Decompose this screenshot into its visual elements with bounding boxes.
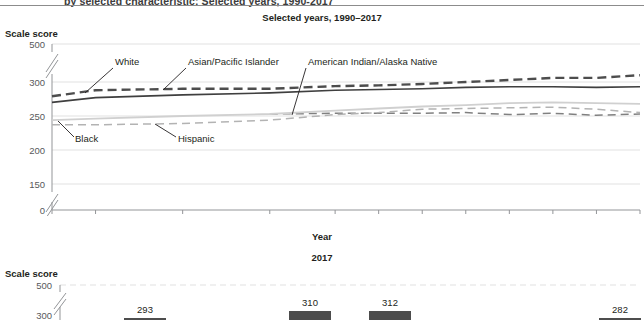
- x-axis-title: Year: [0, 231, 644, 242]
- line-chart-subtitle: Selected years, 1990–2017: [0, 12, 644, 23]
- y-tick-250: 250: [29, 111, 45, 122]
- leader-line-hispanic: [155, 124, 176, 137]
- series-label-white: White: [115, 56, 139, 67]
- bar-value-american-indian-alaska-native: 282: [612, 304, 628, 315]
- series-label-hispanic: Hispanic: [178, 133, 215, 144]
- series-label-american-indian-alaska-native: American Indian/Alaska Native: [308, 56, 437, 67]
- y-tick-300: 300: [36, 310, 52, 320]
- y-tick-0: 0: [40, 205, 45, 216]
- y-tick-200: 200: [29, 145, 45, 156]
- bar-asian-pacific-islander: [369, 311, 411, 320]
- y-tick-500: 500: [36, 280, 52, 291]
- leader-line-black: [58, 121, 74, 137]
- chart-page: by selected characteristic: Selected yea…: [0, 0, 644, 320]
- bar-chart-subtitle: 2017: [0, 252, 644, 263]
- y-tick-500: 500: [29, 39, 45, 50]
- line-chart: 0150200250300500199019921996200020032005…: [0, 38, 644, 216]
- series-label-asian-pacific-islander: Asian/Pacific Islander: [188, 56, 279, 67]
- leader-line-asian-pacific-islander: [163, 68, 186, 90]
- line-chart-svg: 0150200250300500199019921996200020032005…: [0, 38, 644, 216]
- series-label-black: Black: [75, 133, 98, 144]
- header-rule: [0, 5, 644, 6]
- bar-value-white: 310: [302, 297, 318, 308]
- bar-value-total: 293: [137, 304, 153, 315]
- y-tick-150: 150: [29, 179, 45, 190]
- bar-chart-svg: 500300293310312282: [0, 278, 644, 320]
- y-tick-300: 300: [29, 77, 45, 88]
- series-line-asian-pacific-islander: [52, 75, 640, 96]
- bar-chart: 500300293310312282: [0, 278, 644, 320]
- bar-white: [289, 311, 331, 320]
- bar-value-asian-pacific-islander: 312: [382, 297, 398, 308]
- series-line-hispanic: [52, 102, 640, 120]
